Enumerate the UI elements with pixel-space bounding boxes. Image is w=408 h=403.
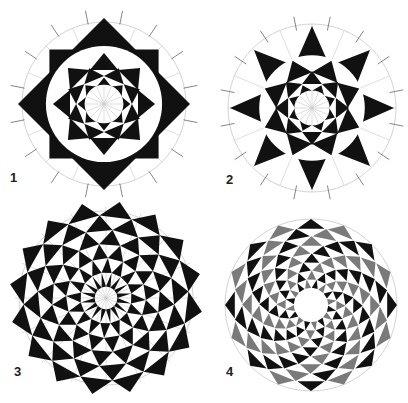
panel-4: [204, 200, 408, 403]
panel-1: [0, 0, 204, 200]
panel-2: [204, 0, 408, 200]
panel-4-label: 4: [226, 364, 233, 379]
panel-3: [0, 200, 204, 403]
mandala-figure: 1 2 3 4: [0, 0, 408, 403]
panel-3-label: 3: [14, 364, 21, 379]
mandala-1-graphic: [0, 0, 204, 200]
mandala-4-graphic: [204, 200, 408, 403]
panel-2-label: 2: [226, 172, 233, 187]
mandala-3-graphic: [0, 200, 204, 403]
panel-1-label: 1: [10, 170, 17, 185]
mandala-2-graphic: [204, 0, 408, 200]
